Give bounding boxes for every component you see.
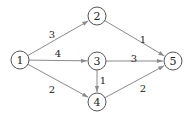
edge-1-to-3 [29, 60, 87, 61]
edge-weight-4-5: 2 [140, 83, 146, 94]
edge-weight-2-5: 1 [140, 34, 146, 45]
edge-1-to-4 [28, 64, 88, 97]
node-5: 5 [164, 52, 182, 70]
node-1: 1 [11, 51, 29, 69]
edge-weight-3-5: 3 [131, 53, 137, 64]
graph-diagram: 3421312 12345 [0, 0, 187, 121]
edge-weight-1-2: 3 [49, 29, 55, 40]
node-3: 3 [88, 52, 106, 70]
node-label: 5 [170, 55, 177, 68]
edge-weight-3-4: 1 [100, 75, 106, 86]
node-label: 1 [17, 54, 24, 67]
node-label: 2 [94, 10, 101, 23]
edge-weight-1-4: 2 [49, 84, 55, 95]
node-label: 4 [94, 96, 101, 109]
node-4: 4 [88, 93, 106, 111]
edge-4-to-5 [105, 66, 164, 98]
node-2: 2 [88, 7, 106, 25]
node-label: 3 [94, 55, 101, 68]
nodes-group: 12345 [11, 7, 182, 111]
edge-2-to-5 [105, 21, 165, 56]
edge-weight-1-3: 4 [55, 48, 61, 59]
